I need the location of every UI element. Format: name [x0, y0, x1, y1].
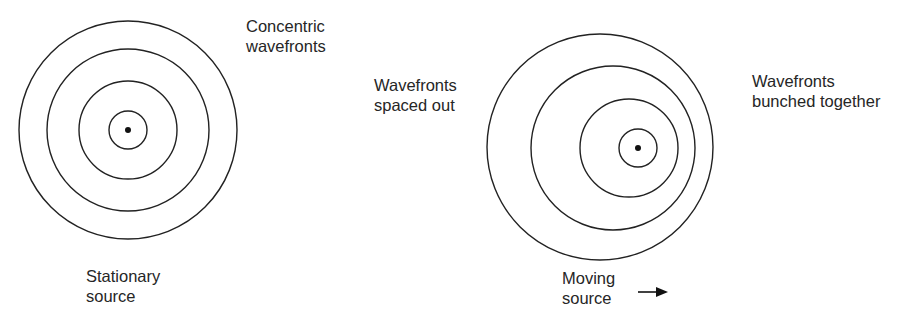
moving-wavefronts — [487, 34, 713, 260]
moving-source-label: Moving source — [562, 268, 615, 308]
wavefront-circle — [580, 99, 678, 197]
wavefronts-bunched-together-label: Wavefronts bunched together — [752, 71, 880, 111]
wavefront-circle — [487, 34, 713, 260]
wavefront-circle — [531, 66, 695, 230]
arrow-right-icon — [638, 287, 668, 297]
stationary-source-dot — [125, 127, 131, 133]
moving-source-dot — [635, 145, 641, 151]
concentric-wavefronts-label: Concentric wavefronts — [246, 16, 326, 56]
stationary-source-label: Stationary source — [86, 266, 160, 306]
wavefronts-spaced-out-label: Wavefronts spaced out — [374, 75, 457, 115]
